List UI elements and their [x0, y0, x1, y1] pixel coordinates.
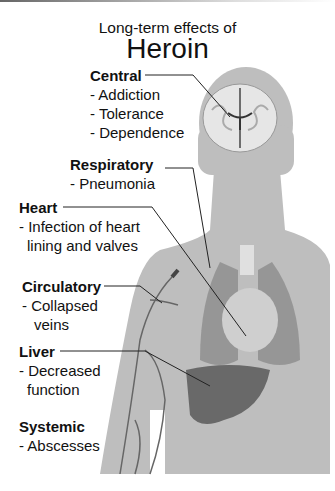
section-item: lining and valves: [27, 237, 140, 254]
brain-icon: [203, 84, 277, 152]
section-item: - Addiction: [90, 86, 184, 103]
section-systemic: Systemic - Abscesses: [19, 418, 100, 454]
section-heading: Circulatory: [22, 278, 101, 295]
section-heart: Heart - Infection of heart lining and va…: [19, 199, 140, 254]
section-item: - Infection of heart: [19, 218, 140, 235]
heart-icon: [222, 288, 278, 352]
section-item: - Pneumonia: [70, 175, 155, 192]
section-item: - Collapsed: [22, 297, 101, 314]
title-heroin: Heroin: [0, 34, 335, 64]
section-respiratory: Respiratory - Pneumonia: [70, 156, 155, 192]
section-heading: Systemic: [19, 418, 100, 435]
section-heading: Liver: [19, 343, 101, 360]
section-item: - Abscesses: [19, 437, 100, 454]
section-item: veins: [34, 316, 101, 333]
section-heading: Central: [90, 67, 184, 84]
section-heading: Heart: [19, 199, 140, 216]
section-circulatory: Circulatory - Collapsed veins: [22, 278, 101, 333]
section-central: Central - Addiction - Tolerance - Depend…: [90, 67, 184, 141]
section-item: function: [27, 381, 101, 398]
section-item: - Dependence: [90, 124, 184, 141]
section-item: - Tolerance: [90, 105, 184, 122]
section-heading: Respiratory: [70, 156, 155, 173]
section-liver: Liver - Decreased function: [19, 343, 101, 398]
section-item: - Decreased: [19, 362, 101, 379]
